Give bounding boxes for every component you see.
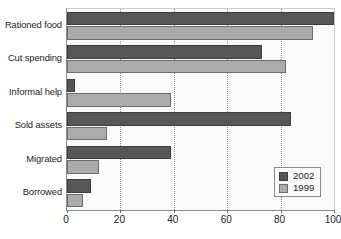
bar-chart: Rationed foodCut spendingInformal helpSo… — [0, 0, 341, 239]
legend-label-1999: 1999 — [293, 183, 314, 193]
bar-cut-spending-2002 — [67, 45, 262, 59]
bar-migrated-1999 — [67, 160, 99, 174]
bar-borrowed-1999 — [67, 194, 83, 208]
bar-rationed-food-1999 — [67, 26, 313, 40]
x-tick-0 — [67, 210, 68, 213]
x-tick-80 — [281, 210, 282, 213]
x-tick-100 — [334, 210, 335, 213]
chart-legend: 20021999 — [274, 167, 321, 197]
legend-swatch-1999 — [279, 184, 288, 193]
x-tick-label-0: 0 — [63, 214, 69, 225]
bar-informal-help-1999 — [67, 93, 171, 107]
legend-label-2002: 2002 — [293, 171, 314, 181]
legend-swatch-2002 — [279, 172, 288, 181]
legend-entry-2002: 2002 — [279, 171, 314, 181]
x-tick-label-80: 80 — [274, 214, 285, 225]
bar-informal-help-2002 — [67, 79, 75, 93]
y-axis-category-labels: Rationed foodCut spendingInformal helpSo… — [0, 8, 62, 209]
x-tick-label-20: 20 — [114, 214, 125, 225]
y-label-migrated: Migrated — [0, 154, 62, 164]
x-tick-label-40: 40 — [167, 214, 178, 225]
legend-entry-1999: 1999 — [279, 183, 314, 193]
y-label-cut-spending: Cut spending — [0, 53, 62, 63]
x-tick-20 — [120, 210, 121, 213]
bar-borrowed-2002 — [67, 179, 91, 193]
x-tick-40 — [174, 210, 175, 213]
bar-rationed-food-2002 — [67, 12, 334, 26]
x-tick-label-60: 60 — [221, 214, 232, 225]
bar-sold-assets-2002 — [67, 112, 291, 126]
bar-sold-assets-1999 — [67, 127, 107, 141]
bar-cut-spending-1999 — [67, 60, 286, 74]
y-label-rationed-food: Rationed food — [0, 20, 62, 30]
y-label-sold-assets: Sold assets — [0, 120, 62, 130]
y-label-informal-help: Informal help — [0, 87, 62, 97]
y-label-borrowed: Borrowed — [0, 187, 62, 197]
gridline-100 — [334, 9, 335, 210]
x-axis-tick-labels: 020406080100 — [66, 214, 334, 230]
x-tick-60 — [227, 210, 228, 213]
x-tick-label-100: 100 — [325, 214, 341, 225]
bar-migrated-2002 — [67, 146, 171, 160]
